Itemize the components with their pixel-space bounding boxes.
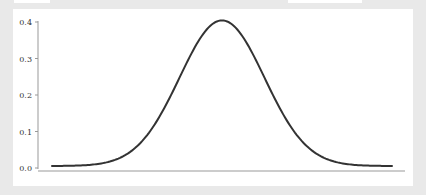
y-tick-label: 0.3 [19, 55, 32, 64]
y-tick-label: 0.1 [19, 128, 32, 137]
y-tick-label: 0.0 [19, 164, 32, 173]
y-tick-label: 0.2 [19, 91, 32, 100]
y-tick-label: 0.4 [19, 18, 32, 27]
density-curve [52, 20, 392, 166]
chart-svg: 0.00.10.20.30.4 [0, 0, 426, 195]
y-axis: 0.00.10.20.30.4 [19, 18, 38, 173]
